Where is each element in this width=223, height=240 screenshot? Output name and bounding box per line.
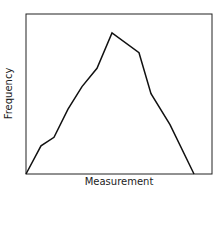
frequency-line: [26, 33, 194, 174]
y-axis-label: Frequency: [3, 64, 14, 124]
x-axis-label: Measurement: [0, 176, 223, 187]
